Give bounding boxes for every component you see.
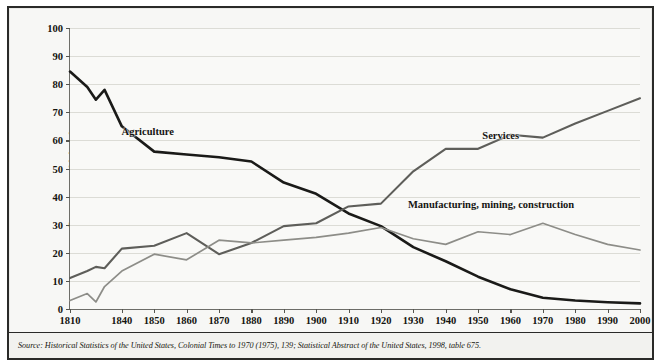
x-tick-label: 1920 [370,315,391,326]
series-line [70,72,640,304]
series-label: Manufacturing, mining, construction [408,198,574,209]
x-tick-label: 1880 [241,315,262,326]
x-tick-label: 1860 [176,315,197,326]
y-tick-label: 70 [53,107,64,118]
x-tick-mark [543,309,544,313]
source-prefix: Source: [18,341,45,350]
x-tick-label: 1980 [565,315,586,326]
y-tick-label: 10 [53,275,64,286]
series-line [70,223,640,302]
series-label: Agriculture [122,125,174,136]
x-tick-label: 1870 [208,315,229,326]
y-tick-label: 0 [58,304,63,315]
x-tick-mark [70,309,71,313]
x-tick-mark [219,309,220,313]
y-tick-label: 90 [53,51,64,62]
x-tick-mark [187,309,188,313]
y-tick-label: 40 [53,191,64,202]
figure-container: Percentage of labor force 01020304050607… [0,0,661,364]
source-note: Source: Historical Statistics of the Uni… [9,341,481,350]
x-tick-mark [251,309,252,313]
chart-frame: Percentage of labor force 01020304050607… [7,6,654,360]
x-tick-mark [446,309,447,313]
x-tick-label: 1910 [338,315,359,326]
x-tick-mark [316,309,317,313]
x-tick-label: 1960 [500,315,521,326]
x-tick-label: 1900 [306,315,327,326]
y-tick-label: 30 [53,219,64,230]
x-tick-mark [478,309,479,313]
x-tick-mark [510,309,511,313]
x-tick-label: 1810 [60,315,81,326]
x-tick-mark [349,309,350,313]
x-tick-label: 1890 [273,315,294,326]
source-bar: Source: Historical Statistics of the Uni… [9,332,652,358]
source-text: Historical Statistics of the United Stat… [45,341,481,350]
x-tick-label: 2000 [630,315,651,326]
y-tick-label: 50 [53,163,64,174]
x-tick-label: 1940 [435,315,456,326]
x-tick-mark [640,309,641,313]
x-tick-mark [381,309,382,313]
y-tick-label: 60 [53,135,64,146]
y-tick-label: 80 [53,79,64,90]
x-tick-label: 1850 [144,315,165,326]
x-tick-mark [575,309,576,313]
x-tick-mark [284,309,285,313]
x-tick-label: 1840 [111,315,132,326]
x-tick-mark [154,309,155,313]
y-tick-label: 20 [53,247,64,258]
y-tick-label: 100 [47,23,63,34]
plot-area: 0102030405060708090100 18101840185018601… [69,28,640,310]
x-tick-label: 1970 [532,315,553,326]
x-tick-mark [413,309,414,313]
series-lines [70,28,640,309]
series-label: Services [482,129,519,140]
x-tick-mark [608,309,609,313]
plot-area-wrapper: Percentage of labor force 01020304050607… [9,8,652,332]
x-tick-label: 1990 [597,315,618,326]
x-tick-label: 1930 [403,315,424,326]
x-tick-label: 1950 [468,315,489,326]
x-tick-mark [122,309,123,313]
